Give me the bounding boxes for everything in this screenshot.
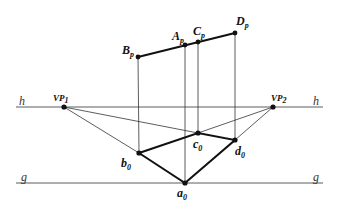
ground-label-left: g	[21, 170, 27, 184]
vp2-to-c0-line	[198, 107, 273, 133]
plan-outline	[139, 133, 235, 183]
ground-label-right: g	[313, 170, 319, 184]
a0-label: a0	[177, 186, 187, 202]
cp-label: Cp	[193, 24, 205, 40]
dp-dot	[233, 31, 238, 36]
vp1-to-c0-line	[64, 107, 198, 133]
b0-dot	[136, 150, 141, 155]
perspective-diagram: h h g g VP1 VP2 a0 b0 c0 d0 Ap Bp Cp Dp	[0, 0, 337, 211]
bp-label: Bp	[121, 43, 134, 59]
vp2-dot	[270, 104, 275, 109]
a0-dot	[182, 180, 187, 185]
vp1-dot	[61, 104, 66, 109]
bp-dot	[136, 55, 141, 60]
c0-dot	[195, 130, 200, 135]
horizon-label-left: h	[19, 94, 25, 108]
d0-label: d0	[235, 144, 245, 160]
projector-b	[138, 57, 139, 153]
horizon-label-right: h	[313, 94, 319, 108]
vp2-to-d0-line	[235, 107, 273, 140]
c0-label: c0	[193, 137, 202, 153]
dp-label: Dp	[235, 14, 249, 30]
vp1-label: VP1	[53, 93, 69, 105]
b0-label: b0	[121, 156, 131, 172]
cp-dot	[196, 40, 201, 45]
ap-label: Ap	[171, 29, 184, 45]
d0-dot	[232, 137, 237, 142]
vp2-label: VP2	[271, 93, 287, 105]
